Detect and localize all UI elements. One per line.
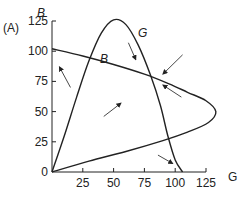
curve-g: [52, 19, 183, 172]
y-tick-label: 100: [28, 44, 48, 58]
x-tick-label: 25: [76, 176, 90, 190]
phase-plane-chart: 2550751001250255075100125 B (A) G G B: [0, 0, 247, 197]
y-tick-label: 75: [35, 74, 49, 88]
x-tick-label: 100: [165, 176, 185, 190]
y-tick-label: 0: [41, 165, 48, 179]
flow-arrow: [128, 43, 135, 60]
y-tick-label: 25: [35, 135, 49, 149]
x-tick-label: 50: [107, 176, 121, 190]
curve-b: [52, 49, 216, 172]
x-axis-title: G: [228, 170, 237, 184]
series-label-g: G: [138, 26, 147, 40]
y-tick-label: 50: [35, 105, 49, 119]
y-axis-title: B: [37, 6, 45, 20]
flow-arrow: [59, 67, 70, 88]
series-label-b: B: [100, 52, 108, 66]
curves: [52, 19, 216, 172]
panel-label: (A): [3, 21, 19, 35]
ticks: 2550751001250255075100125: [28, 14, 216, 190]
flow-arrow: [163, 85, 181, 97]
arrows: [59, 43, 182, 164]
x-tick-label: 125: [196, 176, 216, 190]
x-tick-label: 75: [138, 176, 152, 190]
flow-arrow: [158, 155, 173, 163]
flow-arrow: [104, 103, 121, 116]
flow-arrow: [163, 55, 183, 74]
